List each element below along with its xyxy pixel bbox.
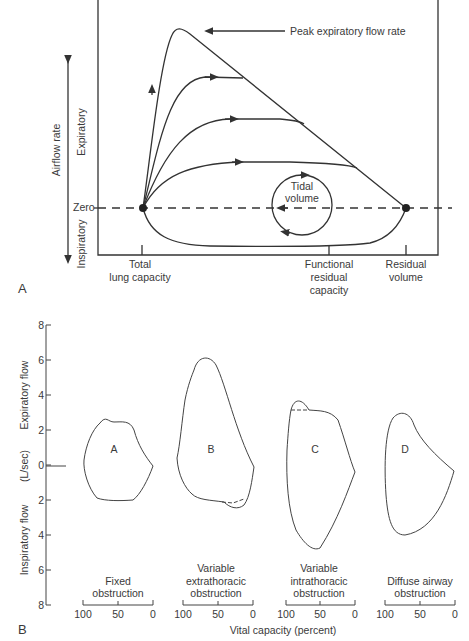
x-scale-c — [286, 600, 355, 605]
x-tick-label: 100 — [74, 608, 92, 620]
x-tick-label: 0 — [250, 608, 256, 620]
x-tick-label: 0 — [352, 608, 358, 620]
loop-c-letter: C — [311, 443, 319, 455]
caption-b-3: obstruction — [190, 587, 242, 599]
loop-d — [385, 413, 454, 535]
caption-b-1: Variable — [197, 562, 235, 574]
y-tick-label: 6 — [38, 354, 44, 366]
y-tick-label: 6 — [38, 564, 44, 576]
airflow-axis-title: Airflow rate — [50, 124, 62, 177]
tlc-label-1: Total — [129, 258, 151, 270]
loop-b — [177, 358, 254, 508]
inspiratory-curve — [143, 208, 406, 246]
x-title: Vital capacity (percent) — [230, 624, 337, 636]
loop-a — [84, 419, 153, 500]
loop-d-letter: D — [401, 443, 409, 455]
panel-a-frame — [98, 0, 438, 255]
panel-b — [46, 325, 455, 605]
x-tick-label: 0 — [150, 608, 156, 620]
loop-b-letter: B — [207, 443, 214, 455]
caption-c-2: intrathoracic — [290, 575, 347, 587]
caption-d-2: obstruction — [394, 587, 446, 599]
y-title-lower: Inspiratory flow — [18, 504, 30, 575]
y-title-upper: Expiratory flow — [18, 360, 30, 429]
caption-c-3: obstruction — [293, 587, 345, 599]
y-tick-label: 0 — [38, 459, 44, 471]
x-tick-label: 50 — [112, 608, 124, 620]
y-title-mid: (L/sec) — [18, 450, 30, 482]
x-tick-label: 0 — [452, 608, 458, 620]
caption-a-1: Fixed — [105, 575, 131, 587]
y-tick-label: 8 — [38, 599, 44, 611]
tidal-label-2: volume — [285, 192, 319, 204]
x-tick-label: 100 — [277, 608, 295, 620]
caption-b-2: extrathoracic — [186, 575, 246, 587]
y-tick-label: 2 — [38, 494, 44, 506]
loop-a-letter: A — [110, 443, 117, 455]
loop-b-dashed — [222, 499, 244, 503]
x-tick-label: 100 — [174, 608, 192, 620]
x-tick-label: 50 — [212, 608, 224, 620]
caption-c-1: Variable — [300, 562, 338, 574]
y-tick-label: 4 — [38, 529, 44, 541]
x-scale-d — [385, 600, 455, 605]
y-tick-label: 4 — [38, 389, 44, 401]
peak-label: Peak expiratory flow rate — [290, 25, 406, 37]
frc-label-1: Functional — [305, 258, 353, 270]
y-tick-label: 8 — [38, 319, 44, 331]
tidal-label-1: Tidal — [291, 180, 313, 192]
frc-label-3: capacity — [310, 284, 349, 296]
panel-a-letter: A — [18, 281, 27, 296]
expiratory-label: Expiratory — [75, 108, 87, 156]
tlc-label-2: lung capacity — [109, 271, 171, 283]
loop-c — [287, 401, 355, 549]
y-tick-label: 2 — [38, 424, 44, 436]
rv-label-1: Residual — [386, 258, 427, 270]
x-scale-a — [83, 600, 153, 605]
caption-a-2: obstruction — [92, 587, 144, 599]
x-scale-b — [183, 600, 253, 605]
x-tick-label: 50 — [414, 608, 426, 620]
rv-label-2: volume — [389, 271, 423, 283]
x-tick-label: 100 — [376, 608, 394, 620]
flow-volume-figure: Peak expiratory flow rate Zero Tidal vol… — [0, 0, 469, 641]
panel-b-letter: B — [18, 622, 27, 637]
panel-a — [68, 0, 452, 260]
tlc-point — [139, 204, 147, 212]
rv-point — [402, 204, 410, 212]
x-tick-label: 50 — [314, 608, 326, 620]
zero-label: Zero — [73, 201, 95, 213]
inspiratory-label: Inspiratory — [75, 219, 87, 269]
frc-label-2: residual — [311, 271, 348, 283]
caption-d-1: Diffuse airway — [387, 575, 453, 587]
